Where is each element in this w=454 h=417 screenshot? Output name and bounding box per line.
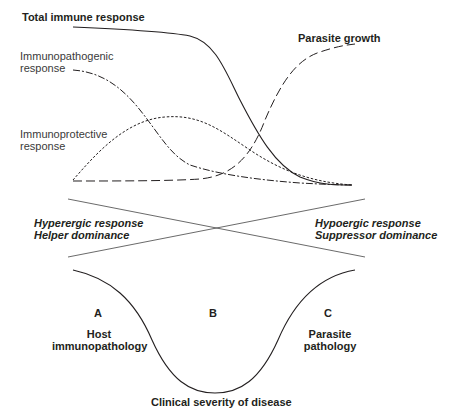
region-b-letter: B bbox=[209, 307, 217, 319]
host-immunopathology-label: Host immunopathology bbox=[52, 328, 146, 352]
region-c-letter: C bbox=[324, 307, 332, 319]
parasite-growth-label: Parasite growth bbox=[298, 32, 381, 44]
hypoergic-suppressor-label: Hypoergic response Suppressor dominance bbox=[315, 217, 437, 241]
immunopathogenic-response-curve bbox=[73, 70, 352, 185]
parasite-pathology-label: Parasite pathology bbox=[298, 328, 362, 352]
immunopathogenic-response-label: Immunopathogenic response bbox=[20, 50, 114, 74]
region-a-letter: A bbox=[94, 307, 102, 319]
immunoprotective-response-curve bbox=[73, 117, 352, 185]
parasite-growth-curve bbox=[73, 44, 355, 181]
hyperergic-helper-label: Hyperergic response Helper dominance bbox=[34, 217, 143, 241]
clinical-severity-axis-label: Clinical severity of disease bbox=[151, 396, 292, 408]
immunoprotective-response-label: Immunoprotective response bbox=[20, 128, 107, 152]
total-immune-response-curve bbox=[73, 27, 352, 185]
total-immune-response-label: Total immune response bbox=[22, 11, 145, 23]
